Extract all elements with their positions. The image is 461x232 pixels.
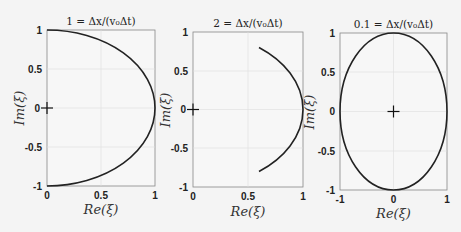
ytick: -0.5 [318,146,336,157]
ytick: 0.5 [28,64,42,75]
ytick: 0 [180,104,186,115]
ytick: -1 [179,182,188,193]
y-axis-label: Im(ξ) [302,95,317,131]
x-axis-label: Re(ξ) [230,204,266,219]
ytick: -0.5 [25,142,43,153]
subplot-title: 1 = Δx/(v₀Δt) [66,15,135,27]
ytick: 0.5 [174,66,188,77]
y-axis-label: Im(ξ) [158,93,173,129]
x-axis-label: Re(ξ) [83,202,119,217]
ytick: 1 [182,27,188,38]
xtick: 0.5 [241,191,255,202]
y-axis-label: Im(ξ) [12,91,27,127]
xtick: 0.5 [94,190,108,201]
subplot-2: 2 = Δx/(v₀Δt) 1 0.5 0 -0.5 -1 0 0.5 1 Re… [158,17,306,219]
xtick: 0 [391,194,397,205]
ytick: 1 [329,28,335,39]
xtick: -1 [336,194,345,205]
xtick: 1 [152,190,158,201]
subplot-3: 0.1 = Δx/(v₀Δt) 1 0.5 0 -0.5 -1 -1 0 1 R… [302,18,450,221]
subplot-1: 1 = Δx/(v₀Δt) 1 0.5 0 -0.5 -1 0 0.5 1 Re… [12,15,158,217]
subplot-title: 0.1 = Δx/(v₀Δt) [354,18,433,30]
ytick: -1 [33,181,42,192]
ytick: 0 [34,103,40,114]
ytick: 0.5 [321,67,335,78]
ytick: 1 [36,25,42,36]
xtick: 0 [190,191,196,202]
ytick: 0 [329,106,335,117]
xtick: 0 [44,190,50,201]
xtick: 1 [444,194,450,205]
x-axis-label: Re(ξ) [375,206,411,221]
xtick: 1 [300,191,306,202]
subplot-title: 2 = Δx/(v₀Δt) [213,17,282,29]
figure: 1 = Δx/(v₀Δt) 1 0.5 0 -0.5 -1 0 0.5 1 Re… [0,0,461,232]
ytick: -0.5 [171,143,189,154]
ytick: -1 [326,185,335,196]
